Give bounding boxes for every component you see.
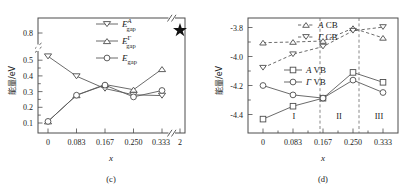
panel-d-ytick-2: -4.2 [230,82,243,91]
panel-c: 0.1 0.2 0.3 0.4 0.5 0.8 能量/eV [0,0,206,190]
panel-c-xtick-5: 2 [178,138,182,147]
svg-text:能量/eV: 能量/eV [214,65,224,95]
panel-d-y-ticks [248,28,253,115]
panel-c-ytick-5: 0.8 [23,29,33,38]
panel-c-ytick-0: 0.1 [23,119,33,128]
legend-label-avb: A VB [305,65,326,75]
panel-d-xtick-4: 0.333 [374,138,392,147]
panel-d-svg: -3.8 -4.0 -4.2 -4.4 能量/eV 0 0.083 0.1 [206,0,413,190]
panel-c-xtick-3: 0.250 [125,138,143,147]
legend-square-icon [290,67,296,73]
panel-c-plot-frame [38,18,185,133]
legend-label-egap-a: EAgap [121,17,136,32]
legend-circle-icon [104,55,110,61]
panel-d-xtick-3: 0.250 [344,138,362,147]
legend-label-gammacb: Γ CB [317,32,337,42]
panel-d-legend-cb: A CB Γ CB [298,20,338,42]
panel-c-x-ticks [48,129,180,134]
panel-d-region-label-3: III [375,111,384,121]
svg-text:能量/eV: 能量/eV [7,65,17,95]
panel-c-xtick-1: 0.083 [68,138,86,147]
panel-c-y-axis-label: 能量/eV [7,65,17,95]
panel-d-ytick-1: -4.0 [230,53,243,62]
legend-label-egap: Egap [121,53,137,65]
panel-c-xtick-0: 0 [46,138,50,147]
panel-c-xtick-2: 0.167 [96,138,114,147]
panel-d-xtick-2: 0.167 [314,138,332,147]
panel-d: -3.8 -4.0 -4.2 -4.4 能量/eV 0 0.083 0.1 [206,0,413,190]
panel-d-region-label-1: I [293,111,296,121]
legend-label-gammavb: Γ VB [305,77,326,87]
panel-c-ytick-1: 0.2 [23,103,33,112]
panel-d-ytick-0: -3.8 [230,24,243,33]
panel-c-ytick-3: 0.4 [23,72,33,81]
panel-d-x-axis-label: x [320,153,325,163]
panel-c-xtick-4: 0.333 [152,138,170,147]
panel-c-ytick-4: 0.5 [23,56,33,65]
panel-d-x-ticks [263,129,383,134]
panel-c-x-axis-label: x [108,153,113,163]
panel-d-ytick-3: -4.4 [230,111,243,120]
panel-c-svg: 0.1 0.2 0.3 0.4 0.5 0.8 能量/eV [0,0,206,190]
panel-c-caption: (c) [106,174,116,184]
panel-c-ytick-2: 0.3 [23,88,33,97]
panel-c-x-axis-break-icon [168,15,177,137]
legend-label-egap-gamma: EΓgap [121,34,136,49]
panel-d-region-label-2: II [336,111,342,121]
panel-d-caption: (d) [318,174,328,184]
panel-d-xtick-1: 0.083 [284,138,302,147]
panel-c-y-break-mask [36,45,39,52]
figure-container: 0.1 0.2 0.3 0.4 0.5 0.8 能量/eV [0,0,413,190]
panel-d-xtick-0: 0 [261,138,265,147]
panel-d-y-axis-label: 能量/eV [214,65,224,95]
panel-d-legend-vb: A VB Γ VB [284,65,326,87]
panel-c-legend: EAgap EΓgap Egap [96,17,137,65]
legend-circle-icon-d [290,79,296,85]
legend-label-acb: A CB [317,20,338,30]
